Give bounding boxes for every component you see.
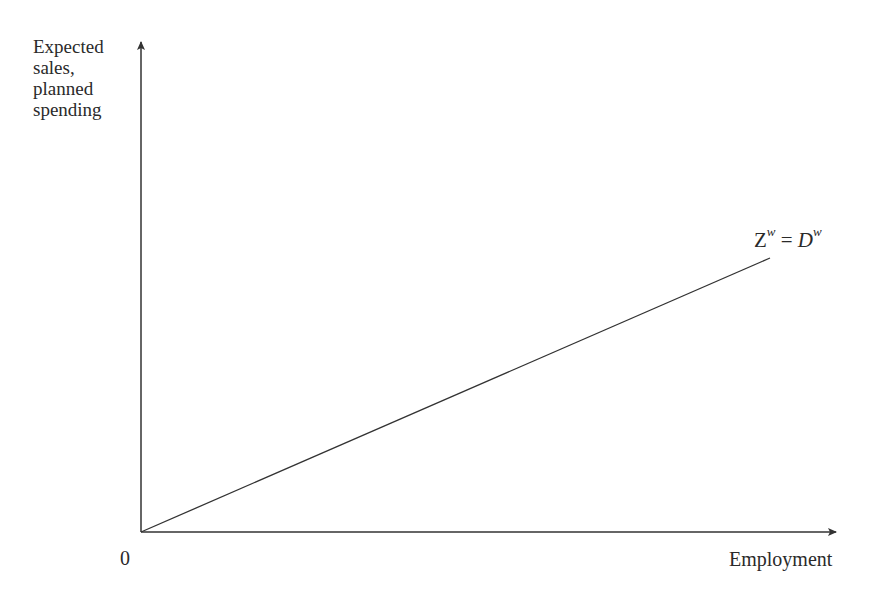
curve-label: Zw = Dw — [754, 228, 822, 253]
curve-label-z-sup: w — [767, 224, 776, 239]
y-axis-label-line: sales, — [33, 57, 104, 78]
curve-label-d: D — [798, 228, 813, 252]
zw-dw-line — [141, 258, 770, 532]
x-axis-label: Employment — [729, 548, 832, 571]
curve-label-d-sup: w — [813, 224, 822, 239]
curve-label-eq: = — [776, 228, 798, 252]
y-axis-label-line: spending — [33, 99, 104, 120]
y-axis-label-line: planned — [33, 78, 104, 99]
diagram-canvas — [0, 0, 870, 606]
y-axis-label: Expected sales, planned spending — [33, 36, 104, 120]
curve-label-z: Z — [754, 228, 767, 252]
origin-label: 0 — [120, 547, 130, 570]
y-axis-label-line: Expected — [33, 36, 104, 57]
